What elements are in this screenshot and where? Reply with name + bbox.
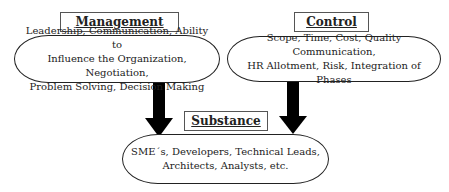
substance-line-2: Architects, Analysts, etc. (131, 159, 320, 173)
control-label: Control (294, 12, 369, 32)
control-oval: Scope, Time, Cost, Quality Communication… (227, 36, 441, 82)
substance-label: Substance (184, 111, 268, 131)
substance-oval: SME´s, Developers, Technical Leads, Arch… (122, 134, 329, 184)
control-line-1: Scope, Time, Cost, Quality Communication… (236, 31, 432, 59)
substance-line-1: SME´s, Developers, Technical Leads, (131, 145, 320, 159)
management-line-3: Problem Solving, Decision Making (23, 80, 211, 94)
management-oval: Leadership, Communication, Ability to In… (14, 35, 220, 83)
management-line-2: Influence the Organization, Negotiation, (23, 52, 211, 80)
arrow-control-to-substance (279, 82, 307, 134)
control-line-2: HR Allotment, Risk, Integration of Phase… (236, 59, 432, 87)
management-line-1: Leadership, Communication, Ability to (23, 24, 211, 52)
